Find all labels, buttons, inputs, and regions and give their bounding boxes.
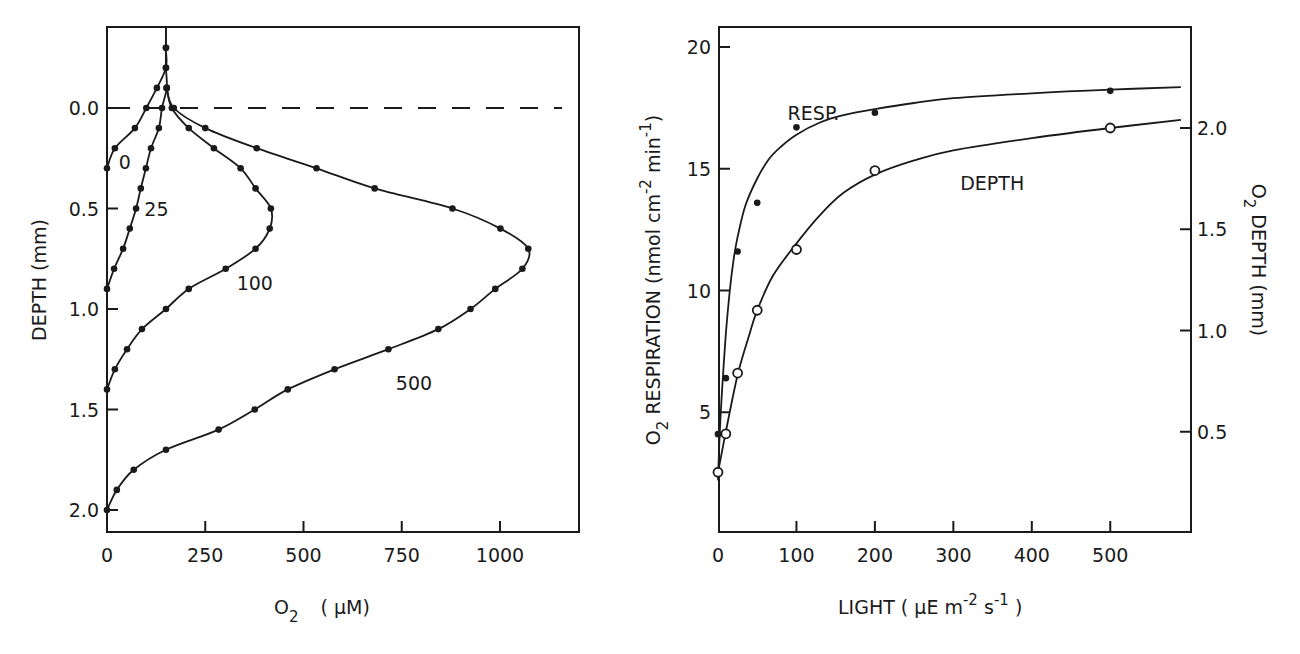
data-point — [130, 467, 137, 474]
data-point — [104, 286, 111, 293]
series-100: 100 — [104, 85, 274, 393]
right-right-y-axis-title: O2 DEPTH (mm) — [1240, 184, 1270, 336]
profile-curve — [107, 28, 167, 289]
profile-curve — [107, 88, 272, 390]
curve-label: 100 — [237, 272, 273, 294]
data-point — [252, 245, 259, 252]
data-point — [163, 65, 170, 72]
data-point — [251, 406, 258, 413]
data-point-filled — [793, 124, 800, 131]
y-tick-label: 1.5 — [69, 399, 99, 421]
data-point — [104, 165, 111, 172]
data-point — [385, 346, 392, 353]
data-point — [371, 185, 378, 192]
right-curves: RESP.DEPTH — [714, 87, 1181, 480]
right-axis-ticks: 010020030040050051015200.51.01.52.0 — [687, 36, 1227, 566]
data-point-filled — [1107, 88, 1114, 95]
left-curves: 025100500 — [104, 28, 562, 514]
fit-curve — [718, 87, 1181, 480]
series-resp: RESP. — [715, 87, 1181, 480]
fit-curve — [718, 120, 1181, 472]
data-point-filled — [715, 431, 722, 438]
data-point — [156, 125, 163, 132]
y-left-tick-label: 20 — [687, 36, 711, 58]
data-point — [163, 85, 170, 92]
data-point — [525, 245, 532, 252]
figure: 025050075010000.00.51.01.52.0 025100500 … — [0, 0, 1300, 654]
data-point — [114, 487, 121, 494]
respiration-light-chart: 010020030040050051015200.51.01.52.0 RESP… — [637, 27, 1270, 618]
data-point — [139, 326, 146, 333]
data-point — [467, 306, 474, 313]
data-point — [215, 426, 222, 433]
left-y-axis-title: DEPTH (mm) — [28, 219, 50, 341]
curve-label: 0 — [119, 151, 131, 173]
curve-label: 25 — [144, 198, 168, 220]
data-point — [124, 346, 131, 353]
right-left-y-axis-title: O2 RESPIRATION (nmol cm-2 min-1) — [637, 115, 672, 445]
curve-label: 500 — [396, 372, 432, 394]
data-point-filled — [734, 248, 741, 255]
data-point — [104, 386, 111, 393]
data-point — [148, 145, 155, 152]
data-point — [143, 105, 150, 112]
data-point — [154, 85, 161, 92]
data-point-filled — [872, 109, 879, 116]
x-tick-label: 400 — [1014, 544, 1050, 566]
data-point — [252, 185, 259, 192]
data-point — [112, 145, 119, 152]
x-tick-label: 100 — [778, 544, 814, 566]
data-point — [126, 225, 133, 232]
data-point — [519, 266, 526, 273]
data-point — [266, 225, 273, 232]
data-point — [133, 205, 140, 212]
y-tick-label: 0.0 — [69, 97, 99, 119]
data-point — [143, 165, 150, 172]
data-point — [237, 165, 244, 172]
data-point — [111, 266, 118, 273]
x-tick-label: 1000 — [476, 544, 524, 566]
series-500: 500 — [104, 85, 532, 514]
y-right-tick-label: 2.0 — [1197, 117, 1227, 139]
data-point — [104, 507, 111, 514]
profile-curve — [107, 88, 530, 510]
x-tick-label: 500 — [285, 544, 321, 566]
x-tick-label: 300 — [935, 544, 971, 566]
y-left-tick-label: 15 — [687, 158, 711, 180]
y-tick-label: 0.5 — [69, 198, 99, 220]
data-point — [435, 326, 442, 333]
data-point-open — [870, 166, 879, 175]
curve-label: DEPTH — [960, 172, 1024, 194]
data-point — [137, 185, 144, 192]
data-point — [253, 145, 260, 152]
data-point — [492, 286, 499, 293]
data-point — [331, 366, 338, 373]
data-point — [159, 105, 166, 112]
left-x-axis-title: O2( µM) — [274, 596, 370, 626]
x-tick-label: 200 — [857, 544, 893, 566]
y-left-tick-label: 10 — [687, 280, 711, 302]
data-point — [132, 125, 139, 132]
x-tick-label: 0 — [101, 544, 113, 566]
x-tick-label: 250 — [187, 544, 223, 566]
curve-label: RESP. — [788, 102, 840, 124]
data-point — [185, 286, 192, 293]
data-point — [171, 105, 178, 112]
data-point — [497, 225, 504, 232]
right-x-axis-title: LIGHT ( µE m-2 s-1 ) — [838, 591, 1022, 618]
data-point — [222, 266, 229, 273]
series-0: 0 — [104, 28, 170, 174]
data-point — [268, 205, 275, 212]
x-tick-label: 500 — [1092, 544, 1128, 566]
data-point — [313, 165, 320, 172]
oxygen-depth-profile-chart: 025050075010000.00.51.01.52.0 025100500 … — [28, 27, 579, 626]
y-right-tick-label: 1.0 — [1197, 320, 1227, 342]
data-point — [120, 245, 127, 252]
data-point-filled — [723, 375, 730, 382]
data-point-open — [733, 369, 742, 378]
data-point-open — [753, 306, 762, 315]
y-tick-label: 1.0 — [69, 298, 99, 320]
series-25: 25 — [104, 28, 170, 293]
data-point-filled — [754, 200, 761, 207]
data-point — [202, 125, 209, 132]
